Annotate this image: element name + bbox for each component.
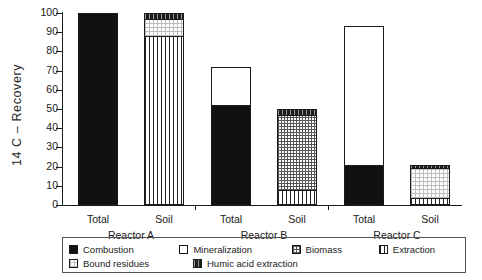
y-tick-label: 90 bbox=[32, 25, 58, 37]
plot-area: 0 10 20 30 40 50 60 70 80 90 100 Total S… bbox=[62, 13, 462, 205]
y-tick-label: 40 bbox=[32, 121, 58, 133]
y-axis-title: 14 C – Recovery bbox=[2, 30, 32, 200]
bar-segment-extraction bbox=[278, 191, 316, 204]
legend-item-biomass: Biomass bbox=[292, 244, 379, 255]
x-label-reactor-c-total: Total bbox=[334, 213, 394, 225]
bar-segment-mineralization bbox=[212, 68, 250, 106]
x-label-reactor-a-soil: Soil bbox=[134, 213, 194, 225]
legend-item-combustion: Combustion bbox=[69, 244, 179, 255]
legend-item-bound-residues: Bound residues bbox=[69, 258, 193, 269]
legend-label-extraction: Extraction bbox=[393, 244, 435, 255]
legend-label-bound-residues: Bound residues bbox=[83, 258, 149, 269]
bar-reactor-c-soil bbox=[410, 165, 450, 205]
legend-label-combustion: Combustion bbox=[83, 244, 134, 255]
legend-label-mineralization: Mineralization bbox=[193, 244, 252, 255]
legend-label-humic-acid-extraction: Humic acid extraction bbox=[207, 258, 298, 269]
bar-segment-combustion bbox=[79, 14, 117, 204]
legend-item-humic-acid-extraction: Humic acid extraction bbox=[193, 258, 319, 269]
y-tick-label: 50 bbox=[32, 102, 58, 114]
legend-swatch-biomass-icon bbox=[292, 245, 301, 254]
y-tick-label: 80 bbox=[32, 44, 58, 56]
bar-reactor-a-soil bbox=[144, 13, 184, 205]
bar-segment-combustion bbox=[345, 166, 383, 204]
legend-swatch-mineralization-icon bbox=[179, 245, 188, 254]
bar-segment-biomass bbox=[278, 116, 316, 191]
legend-swatch-extraction-icon bbox=[379, 245, 388, 254]
bar-reactor-b-total bbox=[211, 67, 251, 205]
legend-row-2: Bound residues Humic acid extraction bbox=[69, 256, 459, 270]
legend-label-biomass: Biomass bbox=[306, 244, 342, 255]
bar-reactor-b-soil bbox=[277, 109, 317, 205]
bar-segment-extraction bbox=[145, 37, 183, 204]
legend-swatch-combustion-icon bbox=[69, 245, 78, 254]
chart-figure: 14 C – Recovery 0 10 20 30 40 50 60 70 8… bbox=[0, 0, 482, 280]
y-tick-label: 0 bbox=[32, 198, 58, 210]
y-tick-label: 100 bbox=[32, 6, 58, 18]
y-tick-label: 20 bbox=[32, 160, 58, 172]
bar-segment-mineralization bbox=[345, 27, 383, 166]
x-label-reactor-c-soil: Soil bbox=[400, 213, 460, 225]
bar-reactor-a-total bbox=[78, 13, 118, 205]
x-axis-line bbox=[62, 205, 462, 206]
legend-swatch-bound-residues-icon bbox=[69, 259, 78, 268]
legend-row-1: Combustion Mineralization Biomass Extrac… bbox=[69, 242, 459, 256]
legend-item-extraction: Extraction bbox=[379, 244, 459, 255]
x-label-reactor-b-soil: Soil bbox=[267, 213, 327, 225]
bar-segment-combustion bbox=[212, 106, 250, 204]
chart-legend: Combustion Mineralization Biomass Extrac… bbox=[62, 237, 466, 273]
y-axis-title-text: 14 C – Recovery bbox=[10, 64, 24, 166]
x-group-tick bbox=[328, 205, 329, 210]
x-label-reactor-b-total: Total bbox=[201, 213, 261, 225]
x-group-tick bbox=[195, 205, 196, 210]
bar-segment-extraction bbox=[411, 199, 449, 204]
y-tick-label: 30 bbox=[32, 140, 58, 152]
bar-segment-bound-residues bbox=[145, 20, 183, 37]
x-label-reactor-a-total: Total bbox=[68, 213, 128, 225]
bar-segment-bound-residues bbox=[411, 169, 449, 198]
y-tick-label: 60 bbox=[32, 83, 58, 95]
y-tick-label: 70 bbox=[32, 64, 58, 76]
y-tick-label: 10 bbox=[32, 179, 58, 191]
legend-item-mineralization: Mineralization bbox=[179, 244, 291, 255]
bar-reactor-c-total bbox=[344, 26, 384, 205]
legend-swatch-humic-acid-extraction-icon bbox=[193, 259, 202, 268]
